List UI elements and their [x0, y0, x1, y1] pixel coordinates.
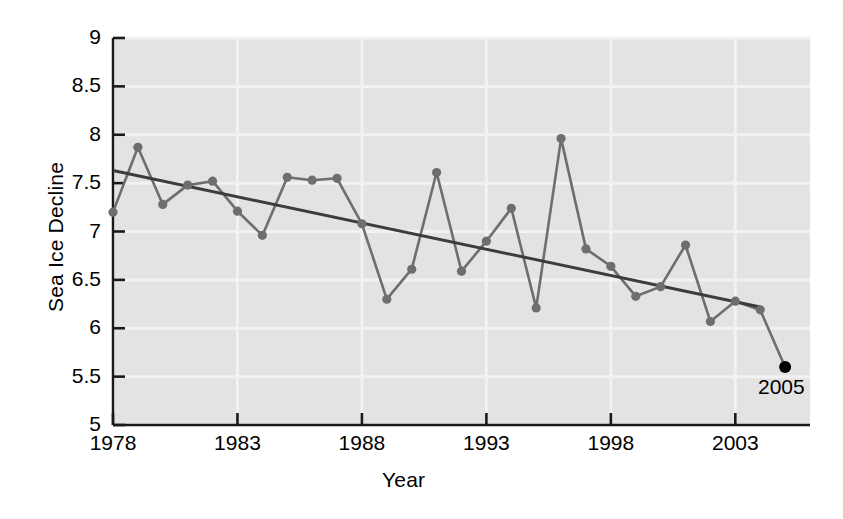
y-tick-label: 7.5 — [1, 170, 101, 194]
x-tick-label: 1983 — [187, 431, 287, 455]
data-point-marker — [756, 305, 765, 314]
data-point-marker — [457, 267, 466, 276]
y-tick-label: 6 — [1, 315, 101, 339]
y-tick-label: 9 — [1, 25, 101, 49]
data-point-marker — [507, 204, 516, 213]
data-point-marker — [432, 168, 441, 177]
data-point-marker — [681, 240, 690, 249]
x-tick-label: 1978 — [63, 431, 163, 455]
data-point-marker — [208, 177, 217, 186]
y-tick-label: 5.5 — [1, 364, 101, 388]
data-point-marker — [631, 292, 640, 301]
data-point-marker — [332, 174, 341, 183]
data-point-marker — [482, 237, 491, 246]
data-point-marker — [656, 282, 665, 291]
data-point-marker — [308, 176, 317, 185]
data-point-marker — [258, 231, 267, 240]
y-tick-label: 6.5 — [1, 267, 101, 291]
data-point-marker — [183, 180, 192, 189]
x-tick-label: 2003 — [685, 431, 785, 455]
data-point-marker — [382, 295, 391, 304]
data-point-marker — [283, 173, 292, 182]
y-tick-label: 7 — [1, 219, 101, 243]
data-point-marker — [556, 134, 565, 143]
x-axis-label: Year — [382, 468, 425, 492]
data-point-marker — [532, 303, 541, 312]
data-point-marker — [706, 317, 715, 326]
x-tick-label: 1993 — [436, 431, 536, 455]
data-point-marker — [357, 219, 366, 228]
x-tick-label: 1998 — [561, 431, 661, 455]
x-tick-label: 1988 — [312, 431, 412, 455]
data-point-marker — [731, 297, 740, 306]
data-point-marker — [133, 143, 142, 152]
data-point-marker — [606, 262, 615, 271]
data-point-marker — [581, 244, 590, 253]
highlight-point-2005 — [779, 361, 791, 373]
data-point-marker — [233, 207, 242, 216]
data-point-marker — [108, 208, 117, 217]
annotation-2005: 2005 — [758, 375, 805, 399]
y-tick-label: 8.5 — [1, 73, 101, 97]
y-tick-label: 8 — [1, 122, 101, 146]
chart-figure: Sea Ice Decline Year 55.566.577.588.5919… — [0, 0, 843, 519]
data-point-marker — [407, 265, 416, 274]
data-point-marker — [158, 200, 167, 209]
